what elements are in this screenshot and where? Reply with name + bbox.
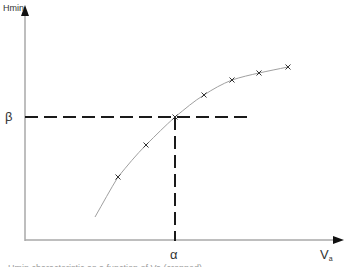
x-axis-label: Va [320, 248, 333, 262]
data-markers [116, 65, 291, 180]
chart-canvas [0, 0, 346, 267]
beta-label: β [5, 110, 12, 123]
marker-x-icon [230, 78, 235, 83]
marker-x-icon [116, 175, 121, 180]
cropped-caption: Hmin characteristic as a function of Va … [8, 262, 202, 267]
x-axis-label-sub: a [329, 255, 333, 262]
hmin-curve [95, 67, 288, 217]
alpha-label: α [170, 248, 178, 261]
y-axis-label: Hmin [3, 4, 24, 13]
marker-x-icon [144, 143, 149, 148]
marker-x-icon [202, 93, 207, 98]
x-axis-arrow-icon [333, 236, 344, 244]
x-axis-label-main: V [320, 247, 329, 262]
